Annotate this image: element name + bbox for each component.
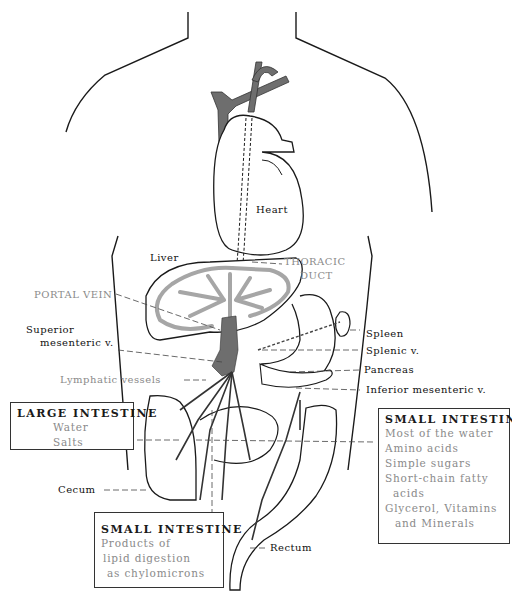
large-intestine-title: LARGE INTESTINE [17, 407, 133, 420]
small-intestine-bottom-box: SMALL INTESTINE Products of lipid digest… [94, 512, 224, 588]
label-spleen: Spleen [366, 328, 404, 339]
body-outline-left-shoulder [66, 12, 188, 132]
small-intestine-bottom-item: lipid digestion [101, 551, 223, 566]
label-thoracic-duct: THORACIC [284, 256, 346, 267]
small-intestine-item: Most of the water [385, 426, 509, 441]
label-inferior-mesenteric-v: Inferior mesenteric v. [366, 384, 486, 395]
pancreas-outline [260, 364, 332, 387]
small-intestine-right-title: SMALL INTESTINE [385, 413, 509, 426]
label-thoracic-duct-2: DUCT [300, 270, 333, 281]
label-portal-vein: PORTAL VEIN [34, 289, 112, 300]
label-superior-mesenteric: Superior [26, 324, 74, 335]
small-intestine-bottom-item: Products of [101, 536, 223, 551]
label-superior-mesenteric-2: mesenteric v. [40, 337, 114, 348]
label-lymphatic-vessels: Lymphatic vessels [60, 374, 161, 385]
body-outline-right-shoulder [296, 12, 432, 212]
large-intestine-item: Salts [17, 435, 133, 450]
small-intestine-item: Short-chain fatty [385, 471, 509, 486]
label-rectum: Rectum [270, 542, 312, 553]
small-intestine-item: and Minerals [385, 516, 509, 531]
small-intestine-item: acids [385, 486, 509, 501]
label-liver: Liver [150, 252, 179, 263]
label-heart: Heart [256, 204, 288, 215]
small-intestine-bottom-title: SMALL INTESTINE [101, 523, 223, 536]
small-intestine-item: Simple sugars [385, 456, 509, 471]
heart-shape [214, 115, 304, 255]
large-intestine-box: LARGE INTESTINE Water Salts [10, 402, 134, 450]
large-intestine-item: Water [17, 420, 133, 435]
label-cecum: Cecum [58, 484, 96, 495]
small-intestine-right-box: SMALL INTESTINE Most of the water Amino … [378, 408, 510, 544]
small-intestine-item: Amino acids [385, 441, 509, 456]
label-pancreas: Pancreas [364, 364, 414, 375]
small-intestine-bottom-item: as chylomicrons [101, 566, 223, 581]
large-intestine-descending [230, 405, 337, 590]
spleen-outline [336, 312, 351, 337]
small-intestine-item: Glycerol, Vitamins [385, 501, 509, 516]
label-splenic-v: Splenic v. [366, 345, 419, 356]
